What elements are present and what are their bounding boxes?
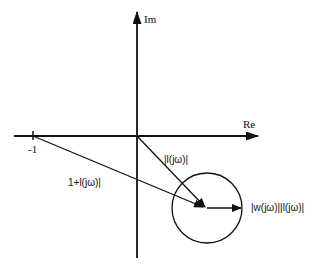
uncertainty-radius-label: |w(jω)||l(jω)| bbox=[251, 202, 304, 213]
minus-one-label: -1 bbox=[28, 143, 37, 155]
return-difference-arrow bbox=[33, 136, 203, 207]
return-difference-label: 1+l(jω)| bbox=[68, 177, 101, 188]
loop-vector-label: |l(jω)| bbox=[164, 154, 188, 165]
loop-vector-arrow bbox=[137, 136, 205, 207]
nyquist-diagram: Im Re -1 |l(jω)| 1+l(jω)| |w(jω)||l(jω)| bbox=[0, 0, 319, 270]
imaginary-axis-label: Im bbox=[144, 13, 157, 25]
real-axis-label: Re bbox=[243, 118, 255, 130]
